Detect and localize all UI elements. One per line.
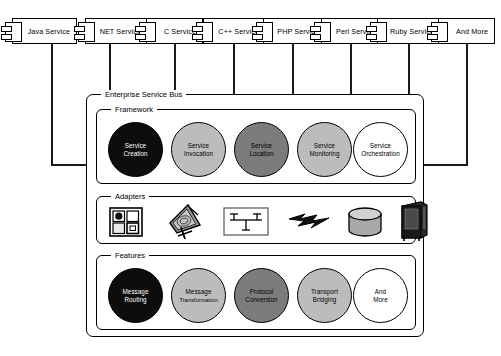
- framework-circle-service-creation[interactable]: Service Creation: [108, 122, 163, 177]
- uml-component-icon: [196, 22, 213, 42]
- service-box-and-more[interactable]: And More: [438, 18, 495, 44]
- connector-line-and-more: [466, 44, 468, 166]
- circle-line-2: Monitoring: [310, 150, 340, 158]
- framework-circle-service-location[interactable]: Service Location: [234, 122, 289, 177]
- connector-line-net: [109, 44, 111, 94]
- circle-line-2: Orchestration: [361, 150, 399, 158]
- database-cylinder-icon[interactable]: [347, 207, 383, 241]
- framework-circle-service-orchestration[interactable]: Service Orchestration: [353, 122, 408, 177]
- circle-line-2: Routing: [124, 296, 146, 304]
- enterprise-service-bus-panel: Enterprise Service Bus Framework Service…: [86, 94, 424, 337]
- circle-line-1: Transport: [311, 288, 338, 296]
- framework-label: Framework: [111, 105, 157, 115]
- features-circle-transport-bridging[interactable]: Transport Bridging: [297, 268, 352, 323]
- circle-line-1: And: [375, 288, 386, 296]
- circle-line-1: Message: [123, 288, 149, 296]
- circle-line-2: More: [373, 296, 388, 304]
- server-rack-icon[interactable]: [399, 201, 429, 245]
- satellite-dish-icon[interactable]: [165, 203, 205, 245]
- connector-grid-icon[interactable]: [109, 207, 143, 241]
- connector-line-ruby: [408, 44, 410, 94]
- connector-line-c: [174, 44, 176, 94]
- features-circle-and-more[interactable]: And More: [353, 268, 408, 323]
- circle-line-2: Transformation: [179, 296, 217, 304]
- circle-line-2: Location: [249, 150, 273, 158]
- connector-line-java-elbow: [51, 164, 86, 166]
- features-circle-message-transformation[interactable]: Message Transformation: [171, 268, 226, 323]
- circle-line-1: Service: [125, 142, 146, 150]
- network-diagram-icon[interactable]: [223, 207, 269, 240]
- uml-component-icon: [314, 22, 331, 42]
- uml-component-icon: [370, 22, 387, 42]
- connector-line-and-more-elbow: [424, 164, 467, 166]
- circle-line-1: Service: [314, 142, 335, 150]
- uml-component-icon: [431, 22, 448, 42]
- esb-label: Enterprise Service Bus: [101, 90, 186, 100]
- uml-component-icon: [5, 22, 22, 42]
- connector-line-cpp: [233, 44, 235, 94]
- features-circle-protocol-conversion[interactable]: Protocol Conversion: [234, 268, 289, 323]
- framework-panel: Framework Service Creation Service Invoc…: [96, 109, 416, 184]
- features-circle-message-routing[interactable]: Message Routing: [108, 268, 163, 323]
- circle-line-2: Conversion: [245, 296, 277, 304]
- service-label: And More: [456, 27, 490, 36]
- service-label: Java Service: [28, 27, 72, 36]
- service-box-java[interactable]: Java Service: [12, 18, 77, 44]
- circle-line-1: Protocol: [250, 288, 274, 296]
- connector-line-php: [292, 44, 294, 94]
- circle-line-2: Creation: [123, 150, 147, 158]
- features-panel: Features Message Routing Message Transfo…: [96, 255, 416, 330]
- uml-component-icon: [78, 22, 95, 42]
- uml-component-icon: [256, 22, 273, 42]
- adapters-panel: Adapters: [96, 196, 416, 244]
- adapters-label: Adapters: [111, 192, 149, 202]
- circle-line-2: Bridging: [313, 296, 337, 304]
- circle-line-1: Service: [251, 142, 272, 150]
- connector-line-perl: [350, 44, 352, 94]
- uml-component-icon: [139, 22, 156, 42]
- lightning-bolt-icon[interactable]: [287, 211, 331, 235]
- circle-line-1: Service: [188, 142, 209, 150]
- features-label: Features: [111, 251, 149, 261]
- circle-line-2: Invocation: [184, 150, 213, 158]
- connector-line-java: [51, 44, 53, 165]
- framework-circle-service-monitoring[interactable]: Service Monitoring: [297, 122, 352, 177]
- circle-line-1: Message: [186, 288, 212, 296]
- esb-diagram-canvas: Java Service NET Service C Service C++ S…: [0, 0, 501, 356]
- circle-line-1: Service: [370, 142, 391, 150]
- framework-circle-service-invocation[interactable]: Service Invocation: [171, 122, 226, 177]
